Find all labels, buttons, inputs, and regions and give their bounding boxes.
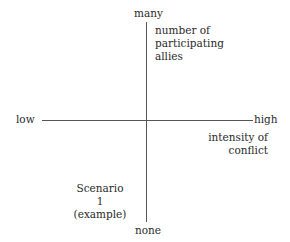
y-axis-top-label: many [134, 7, 163, 20]
y-axis-title-line: number of [155, 24, 224, 37]
y-axis-line [146, 22, 147, 222]
y-axis-title: number of participating allies [155, 24, 224, 63]
x-axis-title-line: intensity of [208, 131, 268, 144]
scenario-label-line: Scenario [70, 182, 130, 195]
scenario-label: Scenario 1 (example) [70, 182, 130, 221]
scenario-label-line: 1 [70, 195, 130, 208]
y-axis-title-line: allies [155, 50, 224, 63]
scenario-label-line: (example) [70, 208, 130, 221]
x-axis-title-line: conflict [208, 144, 268, 157]
x-axis-line [42, 120, 253, 121]
x-axis-left-label: low [16, 113, 35, 126]
y-axis-bottom-label: none [135, 224, 161, 237]
y-axis-title-line: participating [155, 37, 224, 50]
x-axis-title: intensity of conflict [208, 131, 268, 157]
x-axis-right-label: high [254, 113, 278, 126]
